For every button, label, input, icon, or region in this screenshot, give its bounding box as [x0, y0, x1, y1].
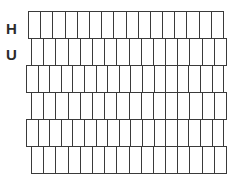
- brick-cell: [142, 39, 154, 65]
- brick-cell: [200, 12, 212, 38]
- brick-cell: [143, 120, 155, 146]
- brick-cell: [69, 147, 81, 173]
- brick-cell: [190, 93, 202, 119]
- brick-cell: [189, 66, 201, 92]
- brick-cell: [215, 39, 226, 65]
- brick-cell: [213, 120, 224, 146]
- brick-cell: [166, 120, 178, 146]
- brick-cell: [105, 147, 117, 173]
- brick-cell: [142, 147, 154, 173]
- brick-cell: [139, 12, 151, 38]
- brick-cell: [105, 93, 117, 119]
- brick-cell: [93, 93, 105, 119]
- brick-cell: [212, 12, 223, 38]
- brick-cell: [32, 39, 44, 65]
- brick-cell: [166, 147, 178, 173]
- brick-cell: [163, 12, 175, 38]
- brick-cell: [166, 66, 178, 92]
- brick-cell: [97, 120, 109, 146]
- brick-cell: [190, 39, 202, 65]
- brick-cell: [78, 12, 90, 38]
- brick-cell: [105, 39, 117, 65]
- brick-cell: [81, 147, 93, 173]
- brick-cell: [203, 93, 215, 119]
- brick-cell: [66, 12, 78, 38]
- brick-cell: [203, 39, 215, 65]
- brick-cell: [155, 66, 167, 92]
- brick-cell: [117, 93, 129, 119]
- brick-cell: [201, 66, 213, 92]
- brick-cell: [154, 93, 166, 119]
- brick-cell: [62, 120, 74, 146]
- brick-cell: [56, 39, 68, 65]
- brick-row: [31, 92, 227, 120]
- brick-cell: [50, 120, 62, 146]
- brick-cell: [53, 12, 65, 38]
- brick-cell: [142, 93, 154, 119]
- brick-cell: [127, 12, 139, 38]
- brick-cell: [85, 120, 97, 146]
- brick-cell: [29, 12, 41, 38]
- brick-cell: [93, 147, 105, 173]
- brick-cell: [203, 147, 215, 173]
- brick-cell: [130, 39, 142, 65]
- brick-cell: [189, 120, 201, 146]
- brick-cell: [44, 93, 56, 119]
- brick-cell: [166, 93, 178, 119]
- brick-cell: [27, 66, 39, 92]
- brick-cell: [201, 120, 213, 146]
- brick-cell: [114, 12, 126, 38]
- brick-row: [31, 38, 227, 66]
- brick-cell: [56, 147, 68, 173]
- brick-cell: [120, 120, 132, 146]
- brick-cell: [90, 12, 102, 38]
- brick-cell: [143, 66, 155, 92]
- brick-cell: [187, 12, 199, 38]
- brick-cell: [39, 120, 51, 146]
- brick-cell: [27, 120, 39, 146]
- brick-cell: [32, 93, 44, 119]
- brick-cell: [44, 147, 56, 173]
- brick-cell: [108, 120, 120, 146]
- brick-cell: [117, 147, 129, 173]
- brick-cell: [131, 66, 143, 92]
- brick-cell: [97, 66, 109, 92]
- brick-cell: [117, 39, 129, 65]
- brick-cell: [190, 147, 202, 173]
- brick-pattern-diagram: H U: [0, 0, 228, 182]
- brick-row: [31, 146, 227, 174]
- brick-cell: [39, 66, 51, 92]
- brick-row: [26, 119, 224, 147]
- brick-cell: [69, 93, 81, 119]
- brick-cell: [166, 39, 178, 65]
- brick-cell: [69, 39, 81, 65]
- brick-cell: [81, 93, 93, 119]
- brick-cell: [178, 147, 190, 173]
- brick-cell: [215, 93, 226, 119]
- brick-cell: [130, 147, 142, 173]
- brick-cell: [178, 93, 190, 119]
- brick-cell: [108, 66, 120, 92]
- brick-row: [26, 65, 224, 93]
- brick-cell: [50, 66, 62, 92]
- brick-cell: [178, 120, 190, 146]
- brick-cell: [56, 93, 68, 119]
- brick-cell: [155, 120, 167, 146]
- brick-cell: [213, 66, 224, 92]
- brick-cell: [73, 66, 85, 92]
- brick-cell: [120, 66, 132, 92]
- brick-cell: [178, 39, 190, 65]
- brick-cell: [44, 39, 56, 65]
- brick-row: [28, 11, 224, 39]
- brick-cell: [215, 147, 226, 173]
- brick-cell: [41, 12, 53, 38]
- brick-cell: [32, 147, 44, 173]
- brick-cell: [93, 39, 105, 65]
- brick-cell: [178, 66, 190, 92]
- brick-cell: [81, 39, 93, 65]
- brick-cell: [175, 12, 187, 38]
- brick-cell: [130, 93, 142, 119]
- brick-cell: [62, 66, 74, 92]
- brick-cell: [85, 66, 97, 92]
- brick-cell: [151, 12, 163, 38]
